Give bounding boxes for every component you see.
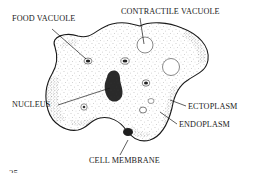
membrane-granule — [123, 128, 133, 136]
label-contractile-vacuole: CONTRACTILE VACUOLE — [121, 8, 220, 16]
clear-vacuole — [163, 59, 180, 76]
cell-membrane-leader — [120, 140, 128, 155]
label-ectoplasm: ECTOPLASM — [188, 103, 237, 111]
amoeba-diagram: FOOD VACUOLE CONTRACTILE VACUOLE NUCLEUS… — [0, 0, 253, 175]
label-food-vacuole: FOOD VACUOLE — [12, 15, 75, 23]
label-endoplasm: ENDOPLASM — [179, 121, 230, 129]
label-nucleus: NUCLEUS — [12, 101, 50, 109]
amoeba-illustration — [0, 0, 253, 175]
contractile-vacuole — [137, 37, 153, 53]
label-cell-membrane: CELL MEMBRANE — [89, 157, 160, 165]
